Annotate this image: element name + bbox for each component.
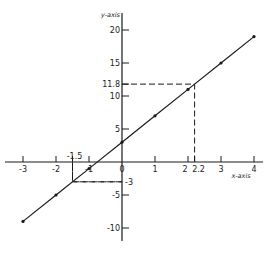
y-tick-label: 10 xyxy=(110,92,120,101)
y-tick-label: 15 xyxy=(110,59,120,68)
y-tick-label: -3 xyxy=(125,178,133,187)
data-point xyxy=(186,88,189,91)
series-line xyxy=(23,37,254,222)
data-point xyxy=(252,35,255,38)
data-series xyxy=(21,35,255,223)
x-axis-label: x-axis xyxy=(230,172,251,180)
x-tick-label: -3 xyxy=(19,165,27,174)
axes xyxy=(5,13,263,241)
dashed-guide xyxy=(122,84,195,162)
data-point xyxy=(21,220,24,223)
y-tick-label: 5 xyxy=(115,125,120,134)
x-tick-label: -1 xyxy=(85,165,93,174)
line-chart: -3-2-10122.234-1.5x-axis201511.8105-3-5-… xyxy=(0,0,275,255)
x-tick-label: 3 xyxy=(218,165,223,174)
data-point xyxy=(54,193,57,196)
x-tick-label: 4 xyxy=(251,165,256,174)
x-tick-label: 1 xyxy=(152,165,157,174)
x-tick-label: 0 xyxy=(119,165,124,174)
x-tick-label: 2.2 xyxy=(192,165,205,174)
data-point xyxy=(120,141,123,144)
data-point xyxy=(219,61,222,64)
y-tick-label: -10 xyxy=(107,224,120,233)
data-point xyxy=(153,114,156,117)
tick-labels: -3-2-10122.234-1.5x-axis201511.8105-3-5-… xyxy=(19,11,257,233)
y-tick-label: 11.8 xyxy=(102,80,120,89)
x-annotation-label: -1.5 xyxy=(67,152,83,161)
y-axis-label: y-axis xyxy=(100,11,121,19)
x-tick-label: 2 xyxy=(182,165,187,174)
y-tick-label: 20 xyxy=(110,26,120,35)
y-tick-label: -5 xyxy=(112,191,120,200)
x-tick-label: -2 xyxy=(52,165,60,174)
dashed-guide xyxy=(73,162,123,182)
